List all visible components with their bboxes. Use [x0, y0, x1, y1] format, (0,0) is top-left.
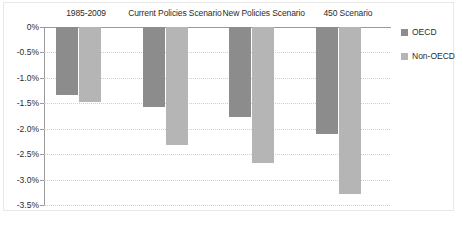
y-axis-tick-label: -0.5% — [3, 48, 39, 57]
bar-oecd-1[interactable] — [143, 27, 165, 107]
legend-label: OECD — [412, 27, 437, 37]
bar-oecd-0[interactable] — [56, 27, 78, 95]
y-axis-tick-label: -1.0% — [3, 74, 39, 83]
bar-non-oecd-1[interactable] — [166, 27, 188, 145]
y-axis-tick-label: -2.5% — [3, 150, 39, 159]
y-axis-tick-label: -3.5% — [3, 201, 39, 210]
y-axis-tick-label: 0% — [3, 23, 39, 32]
category-label: New Policies Scenario — [222, 5, 306, 21]
legend-entry[interactable]: OECD — [401, 27, 457, 37]
bar-non-oecd-3[interactable] — [339, 27, 361, 194]
y-axis-tick — [40, 205, 44, 206]
legend-entry[interactable]: Non-OECD — [401, 51, 457, 61]
bar-group — [131, 27, 218, 205]
plot-area — [44, 27, 390, 205]
gridline — [44, 205, 390, 206]
bar-group — [44, 27, 131, 205]
category-axis: 1985-2009Current Policies ScenarioNew Po… — [44, 5, 390, 21]
category-label: Current Policies Scenario — [128, 5, 221, 21]
legend-label: Non-OECD — [412, 51, 455, 61]
category-label: 450 Scenario — [306, 5, 390, 21]
category-label: 1985-2009 — [44, 5, 128, 21]
legend-swatch-icon — [401, 53, 408, 60]
y-axis-tick-label: -1.5% — [3, 99, 39, 108]
bar-non-oecd-0[interactable] — [79, 27, 101, 102]
y-axis-tick-label: -2.0% — [3, 125, 39, 134]
figure-caption — [6, 214, 446, 226]
legend-swatch-icon — [401, 29, 408, 36]
bar-non-oecd-2[interactable] — [252, 27, 274, 163]
y-axis-tick-label: -3.0% — [3, 176, 39, 185]
chart-figure: 1985-2009Current Policies ScenarioNew Po… — [0, 0, 457, 227]
bar-oecd-3[interactable] — [316, 27, 338, 134]
bar-group — [304, 27, 391, 205]
bar-group — [217, 27, 304, 205]
bar-oecd-2[interactable] — [229, 27, 251, 117]
chart-legend: OECDNon-OECD — [401, 27, 457, 75]
